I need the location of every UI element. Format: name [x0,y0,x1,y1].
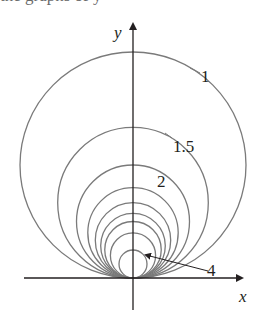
plot-canvas: y x 1 1.5 2 4 [0,0,264,322]
curve-label-k4: 4 [207,261,216,280]
curve-label-k2: 2 [157,172,166,191]
x-axis-label: x [238,287,247,306]
curve-label-k1-5: 1.5 [173,137,194,156]
level-curves-figure: the graphs of y y x [0,0,264,322]
y-axis-label: y [112,23,122,42]
leader-line-k1 [190,68,200,73]
cropped-caption-text: the graphs of y [0,0,264,6]
curve-label-k1: 1 [201,67,210,86]
